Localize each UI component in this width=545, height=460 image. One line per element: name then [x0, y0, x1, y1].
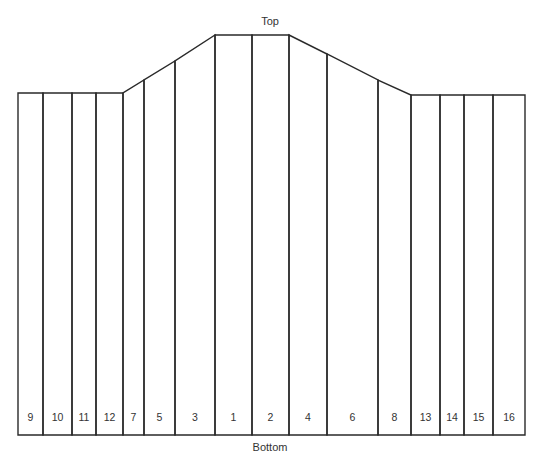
column-number: 14 — [446, 411, 458, 423]
column-10: 10 — [43, 93, 72, 435]
column-outline — [123, 80, 144, 435]
column-outline — [440, 95, 464, 435]
column-diagram: Top 91011127531246813141516 Bottom — [0, 0, 545, 460]
column-2: 2 — [252, 35, 289, 435]
column-14: 14 — [440, 95, 464, 435]
column-outline — [18, 93, 43, 435]
column-16: 16 — [493, 95, 525, 435]
column-number: 11 — [79, 411, 90, 423]
column-outline — [215, 35, 252, 435]
column-8: 8 — [378, 80, 411, 435]
column-number: 8 — [392, 411, 398, 423]
column-outline — [43, 93, 72, 435]
column-outline — [493, 95, 525, 435]
column-outline — [175, 35, 215, 435]
column-outline — [252, 35, 289, 435]
column-3: 3 — [175, 35, 215, 435]
column-outline — [96, 93, 123, 435]
column-number: 2 — [268, 411, 274, 423]
column-7: 7 — [123, 80, 144, 435]
column-12: 12 — [96, 93, 123, 435]
column-outline — [144, 61, 175, 435]
columns-group: 91011127531246813141516 — [18, 35, 525, 435]
column-number: 5 — [157, 411, 163, 423]
column-5: 5 — [144, 61, 175, 435]
column-number: 3 — [192, 411, 198, 423]
column-outline — [411, 95, 440, 435]
column-15: 15 — [464, 95, 493, 435]
column-9: 9 — [18, 93, 43, 435]
column-number: 10 — [52, 411, 64, 423]
column-outline — [464, 95, 493, 435]
column-outline — [289, 35, 327, 435]
bottom-label: Bottom — [253, 441, 288, 453]
column-6: 6 — [327, 54, 378, 435]
column-4: 4 — [289, 35, 327, 435]
column-13: 13 — [411, 95, 440, 435]
column-number: 9 — [28, 411, 34, 423]
column-number: 16 — [503, 411, 515, 423]
column-number: 1 — [231, 411, 237, 423]
column-number: 4 — [305, 411, 311, 423]
column-number: 6 — [350, 411, 356, 423]
column-number: 7 — [131, 411, 137, 423]
column-number: 15 — [473, 411, 485, 423]
column-outline — [72, 93, 96, 435]
column-outline — [378, 80, 411, 435]
column-1: 1 — [215, 35, 252, 435]
column-number: 12 — [104, 411, 116, 423]
column-11: 11 — [72, 93, 96, 435]
top-label: Top — [261, 15, 279, 27]
column-number: 13 — [420, 411, 432, 423]
column-outline — [327, 54, 378, 435]
